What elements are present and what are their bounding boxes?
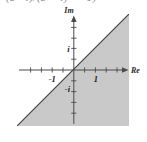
complex-plane-figure: (z - i)/(z + i) = -1) bbox=[0, 0, 147, 142]
tick-label-1: 1 bbox=[94, 74, 98, 84]
tick-label-negative-1: -1 bbox=[49, 74, 56, 84]
real-axis-label: Re bbox=[130, 66, 140, 75]
tick-label-negative-i: -i bbox=[65, 84, 71, 94]
argand-diagram-plot: Re Im i -i -1 1 bbox=[0, 0, 147, 142]
imaginary-axis-label: Im bbox=[63, 6, 73, 15]
